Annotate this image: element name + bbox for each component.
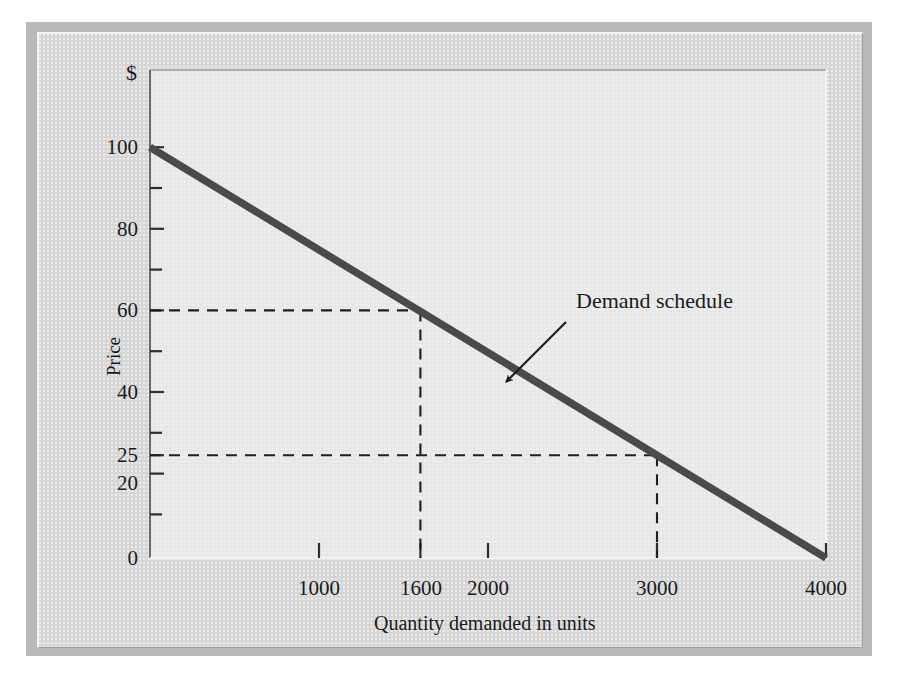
demand-schedule-figure: $ Price 100 80 60 40 25 20 0 1000 1600 2… — [0, 0, 898, 693]
y-tick-label-20: 20 — [78, 473, 138, 494]
y-tick-label-80: 80 — [78, 219, 138, 240]
figure-inner-panel — [37, 32, 863, 648]
y-axis-title: Price — [104, 337, 123, 376]
demand-schedule-annotation: Demand schedule — [576, 290, 733, 312]
y-tick-label-100: 100 — [78, 137, 138, 158]
y-tick-label-40: 40 — [78, 382, 138, 403]
x-tick-label-2000: 2000 — [438, 578, 538, 599]
x-tick-label-3000: 3000 — [607, 578, 707, 599]
figure-outer-frame — [26, 22, 872, 656]
x-axis-title: Quantity demanded in units — [374, 613, 596, 633]
y-tick-label-60: 60 — [78, 300, 138, 321]
y-tick-label-0: 0 — [78, 548, 138, 569]
x-tick-label-4000: 4000 — [776, 578, 876, 599]
x-tick-label-1000: 1000 — [269, 578, 369, 599]
y-tick-label-25: 25 — [78, 445, 138, 466]
y-axis-unit-symbol: $ — [126, 62, 137, 84]
